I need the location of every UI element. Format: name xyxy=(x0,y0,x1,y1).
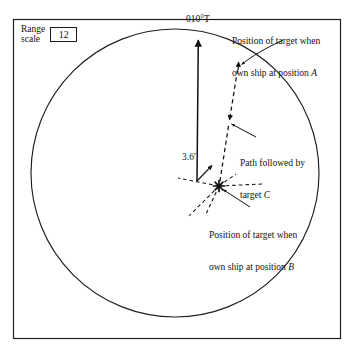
annotation-position-a: Position of target when own ship at posi… xyxy=(232,15,320,100)
annotation-path-c-target-id: C xyxy=(264,190,270,200)
annotation-path-c-line1: Path followed by xyxy=(240,158,305,169)
annotation-position-a-line2: own ship at position A xyxy=(232,68,320,79)
range-scale-label: Range scale xyxy=(21,24,45,45)
annotation-position-b-line1: Position of target when xyxy=(209,230,297,241)
annotation-position-a-ship-id: A xyxy=(311,68,317,78)
annotation-position-b-line2: own ship at position B xyxy=(209,262,297,273)
annotation-position-a-line2-text: own ship at position xyxy=(232,68,311,78)
range-scale-readout: Range scale 12 xyxy=(21,24,77,45)
range-marker-label: 3.6′ xyxy=(182,152,196,163)
annotation-position-b: Position of target when own ship at posi… xyxy=(209,209,297,294)
annotation-position-b-ship-id: B xyxy=(288,262,294,272)
range-scale-value: 12 xyxy=(50,27,77,42)
range-scale-label-line1: Range xyxy=(21,24,45,34)
annotation-position-a-line1: Position of target when xyxy=(232,36,320,47)
annotation-path-c-line2: target C xyxy=(240,190,305,201)
heading-label: 010°T xyxy=(186,14,210,25)
target-position-b-core-dot xyxy=(217,184,221,188)
range-scale-label-line2: scale xyxy=(21,34,45,44)
annotation-path-c-line2-text: target xyxy=(240,190,264,200)
radar-figure: Range scale 12 010°T 3.6′ Position of ta… xyxy=(0,0,351,350)
annotation-position-b-line2-text: own ship at position xyxy=(209,262,288,272)
